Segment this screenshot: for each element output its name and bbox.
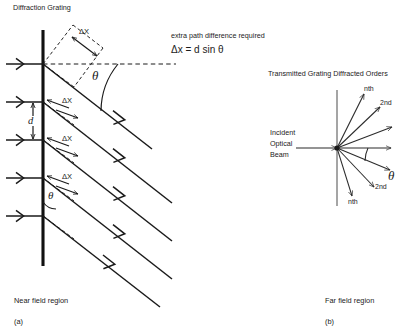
incident-beams-group [6,58,43,221]
delta-x-label-2: ΔX [62,96,72,105]
diffracted-ray-5-chevron [103,255,115,269]
far-field-title: Transmitted Grating Diffracted Orders [268,69,388,78]
near-field-title: Diffraction Grating [13,3,71,12]
order-label-lower-nth: nth [348,198,358,207]
wavefront-line-top-d [43,64,74,87]
diffracted-ray-2-chevron [113,149,125,163]
theta-arc-lower [43,202,56,209]
delta-x-label-1: ΔX [79,27,89,36]
far-field-ray-up-nth [337,94,364,148]
near-field-diagram [6,25,176,307]
diffracted-ray-5 [43,216,160,307]
incident-beam-label-line2: Optical [270,139,292,148]
incident-beam-label-line1: Incident [270,128,295,137]
diffracted-ray-3 [43,140,172,241]
far-field-caption: Far field region [325,296,374,305]
wavefront-line-top-c [74,48,103,87]
theta-arc-upper [101,64,118,111]
diffracted-ray-4 [43,178,172,279]
diffracted-ray-4-chevron [113,225,125,239]
wavefront-line-top-a [43,25,73,64]
incident-beam-label-line3: Beam [270,150,289,159]
diffracted-ray-3-chevron [113,187,125,201]
path-difference-note: extra path difference required [171,31,265,40]
far-field-ray-up-2nd [337,107,380,148]
order-label-upper-nth: nth [364,85,374,94]
theta-label-upper: θ [92,68,98,84]
theta-label-lower: θ [48,189,53,203]
near-field-caption-index: (a) [14,317,23,326]
far-field-ray-up-1st [337,127,392,148]
order-label-lower-2nd: 2nd [375,183,387,192]
far-field-ray-down-1st [337,148,390,170]
far-field-grating-spot [334,145,339,150]
near-field-caption: Near field region [14,296,68,305]
diffraction-grating-figure: Diffraction Grating extra path differenc… [0,0,400,334]
wavefront-construction-group [43,25,103,239]
path-difference-equation: Δx = d sin θ [171,44,224,57]
diffracted-ray-1-chevron [113,111,125,125]
delta-x-label-3: ΔX [62,134,72,143]
order-label-upper-2nd: 2nd [380,99,392,108]
far-field-theta-arc [365,148,368,161]
path-difference-arrow-top [72,37,97,56]
far-field-caption-index: (b) [325,317,334,326]
delta-x-label-4: ΔX [62,172,72,181]
grating-spacing-label: d [28,114,33,127]
far-field-theta-label: θ [388,168,394,184]
path-difference-arrows-group [47,37,97,194]
